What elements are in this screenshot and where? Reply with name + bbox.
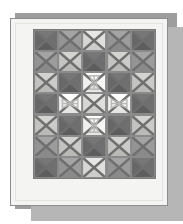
- quilt-block-patches: [82, 136, 106, 157]
- image-canvas: [0, 0, 183, 224]
- quilt-block-patches: [34, 72, 58, 93]
- quilt-block-motif: [107, 93, 131, 114]
- quilt-block-patches: [131, 72, 155, 93]
- quilt-grid: [34, 30, 155, 178]
- quilt-block-patches: [58, 115, 82, 136]
- quilt-block-patches: [34, 30, 58, 51]
- quilt-block: [131, 157, 155, 178]
- quilt-block-patches: [58, 51, 82, 72]
- quilt-block-patches: [34, 93, 58, 114]
- quilt-block: [82, 136, 106, 157]
- quilt-block: [131, 51, 155, 72]
- quilt-block: [34, 157, 58, 178]
- quilt-block-patches: [82, 157, 106, 178]
- quilt-block-patches: [58, 30, 82, 51]
- quilt-block-patches: [82, 51, 106, 72]
- quilt-block: [107, 30, 131, 51]
- quilt-block: [34, 30, 58, 51]
- quilt-block-patches: [107, 136, 131, 157]
- quilt-block: [131, 136, 155, 157]
- quilt-block: [34, 93, 58, 114]
- quilt-block-motif: [82, 115, 106, 136]
- quilt-block-patches: [107, 115, 131, 136]
- quilt-block-motif: [82, 72, 106, 93]
- quilt-block: [131, 72, 155, 93]
- quilt-block: [107, 72, 131, 93]
- quilt-block: [82, 72, 106, 93]
- quilt-block: [107, 136, 131, 157]
- quilt-block-patches: [107, 72, 131, 93]
- quilt-block-patches: [107, 30, 131, 51]
- quilt-block-patches: [82, 93, 106, 114]
- quilt-block-patches: [58, 157, 82, 178]
- quilt-block: [107, 115, 131, 136]
- quilt-block: [58, 136, 82, 157]
- quilt-block-patches: [34, 115, 58, 136]
- quilt-block: [82, 115, 106, 136]
- quilt-block: [131, 30, 155, 51]
- quilt-block: [82, 93, 106, 114]
- quilt-block: [34, 115, 58, 136]
- quilt-block: [82, 157, 106, 178]
- quilt-block-patches: [131, 157, 155, 178]
- quilt-block-patches: [131, 136, 155, 157]
- quilt-block: [58, 72, 82, 93]
- quilt-block: [82, 51, 106, 72]
- quilt-block-patches: [107, 157, 131, 178]
- quilt-block-patches: [34, 157, 58, 178]
- quilt-block: [82, 30, 106, 51]
- quilt-photo-card: [10, 18, 168, 206]
- quilt-block: [131, 93, 155, 114]
- quilt-block-patches: [34, 136, 58, 157]
- quilt-block: [107, 93, 131, 114]
- quilt-block: [107, 51, 131, 72]
- quilt-block: [58, 115, 82, 136]
- quilt-block: [107, 157, 131, 178]
- quilt-block: [34, 72, 58, 93]
- quilt-block-patches: [131, 30, 155, 51]
- quilt-block: [34, 136, 58, 157]
- quilt-block-patches: [131, 93, 155, 114]
- quilt-block: [58, 93, 82, 114]
- quilt-block: [131, 115, 155, 136]
- quilt-block: [58, 30, 82, 51]
- quilt-block-patches: [82, 30, 106, 51]
- quilt-block: [34, 51, 58, 72]
- quilt-block-patches: [58, 72, 82, 93]
- quilt-block-patches: [58, 136, 82, 157]
- quilt-block: [58, 157, 82, 178]
- quilt-block-motif: [58, 93, 82, 114]
- quilt-block-patches: [131, 51, 155, 72]
- quilt-block: [58, 51, 82, 72]
- quilt-block-patches: [131, 115, 155, 136]
- quilt-block-patches: [34, 51, 58, 72]
- quilt-block-patches: [107, 51, 131, 72]
